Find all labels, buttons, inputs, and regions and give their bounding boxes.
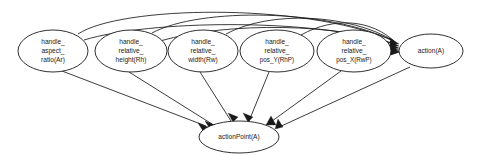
node-label-handle-relative-pos-x-line2: relative_ — [342, 47, 367, 55]
edge-aspect-ratio-to-actionpoint — [62, 71, 206, 126]
node-handle-relative-height[interactable]: handle_ relative_ height(Rh) — [95, 30, 167, 72]
arrowhead-into-actionpoint-6 — [275, 119, 283, 129]
arrowhead-into-actionpoint-5 — [266, 116, 276, 125]
node-label-handle-relative-width-line2: relative_ — [191, 47, 216, 55]
node-label-handle-relative-height-line2: relative_ — [119, 47, 144, 55]
node-label-handle-relative-pos-y-line3: pos_Y(RhP) — [260, 56, 294, 64]
node-label-actionpoint: actionPoint(A) — [218, 133, 259, 141]
diagram-canvas: handle_ aspect_ ratio(Ar) handle_ relati… — [0, 0, 478, 155]
node-label-handle-relative-height-line3: height(Rh) — [116, 56, 147, 64]
node-actionpoint[interactable]: actionPoint(A) — [199, 121, 279, 153]
node-label-action: action(A) — [418, 47, 444, 55]
node-handle-relative-pos-y[interactable]: handle_ relative_ pos_Y(RhP) — [240, 30, 314, 72]
node-label-handle-aspect-ratio-line2: aspect_ — [41, 47, 64, 55]
node-label-handle-relative-width-line3: width(Rw) — [187, 56, 217, 64]
node-action[interactable]: action(A) — [399, 34, 463, 68]
edge-relative-width-to-actionpoint — [200, 72, 231, 121]
node-label-handle-relative-pos-y-line2: relative_ — [265, 47, 290, 55]
edge-action-to-actionpoint — [277, 67, 410, 128]
node-handle-relative-width[interactable]: handle_ relative_ width(Rw) — [168, 30, 238, 72]
node-handle-aspect-ratio[interactable]: handle_ aspect_ ratio(Ar) — [18, 30, 88, 72]
node-label-handle-relative-height-line1: handle_ — [119, 38, 143, 46]
graph-svg: handle_ aspect_ ratio(Ar) handle_ relati… — [0, 0, 478, 155]
edge-relative-height-to-actionpoint — [129, 72, 212, 124]
node-handle-relative-pos-x[interactable]: handle_ relative_ pos_X(RwP) — [317, 30, 391, 72]
node-label-handle-aspect-ratio-line1: handle_ — [41, 38, 65, 46]
node-label-handle-relative-pos-x-line1: handle_ — [342, 38, 366, 46]
edge-relative-posY-to-actionpoint — [249, 72, 269, 121]
node-label-handle-relative-pos-y-line1: handle_ — [265, 38, 289, 46]
node-label-handle-aspect-ratio-line3: ratio(Ar) — [41, 56, 65, 64]
node-label-handle-relative-pos-x-line3: pos_X(RwP) — [336, 56, 371, 64]
edge-relative-posX-to-actionpoint — [268, 71, 341, 124]
node-label-handle-relative-width-line1: handle_ — [191, 38, 215, 46]
